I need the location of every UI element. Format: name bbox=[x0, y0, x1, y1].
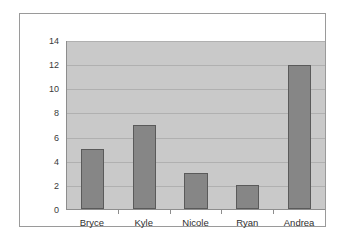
x-axis-tick-label: Nicole bbox=[170, 213, 222, 233]
chart-frame: 14 12 10 8 6 4 2 0 bbox=[19, 13, 326, 227]
bar-slot bbox=[119, 41, 171, 209]
y-axis-tick-label: 4 bbox=[40, 158, 64, 167]
y-axis-tick-label: 14 bbox=[40, 37, 64, 46]
chart-container: 14 12 10 8 6 4 2 0 bbox=[0, 0, 344, 243]
y-axis-tick-label: 0 bbox=[40, 206, 64, 215]
y-axis-tick-label: 10 bbox=[40, 85, 64, 94]
bar-bryce[interactable] bbox=[81, 149, 104, 209]
bar-kyle[interactable] bbox=[133, 125, 156, 209]
bar-slot bbox=[67, 41, 119, 209]
bar-slot bbox=[222, 41, 274, 209]
bar-nicole[interactable] bbox=[184, 173, 207, 209]
y-axis-label-group: 14 12 10 8 6 4 2 0 bbox=[40, 41, 64, 210]
y-axis-tick-label: 8 bbox=[40, 109, 64, 118]
plot-area bbox=[66, 41, 325, 210]
y-axis-tick-label: 6 bbox=[40, 134, 64, 143]
x-axis-tick-label: Kyle bbox=[118, 213, 170, 233]
x-axis-tick-label: Ryan bbox=[221, 213, 273, 233]
bar-slot bbox=[170, 41, 222, 209]
bar-slot bbox=[273, 41, 325, 209]
y-axis-tick-label: 12 bbox=[40, 61, 64, 70]
bars-layer bbox=[67, 41, 325, 209]
x-axis-tick-label: Bryce bbox=[66, 213, 118, 233]
x-axis-tick-label: Andrea bbox=[273, 213, 325, 233]
bar-andrea[interactable] bbox=[288, 65, 311, 209]
bar-ryan[interactable] bbox=[236, 185, 259, 209]
y-axis-tick-label: 2 bbox=[40, 182, 64, 191]
x-axis-label-group: Bryce Kyle Nicole Ryan Andrea bbox=[66, 213, 325, 233]
